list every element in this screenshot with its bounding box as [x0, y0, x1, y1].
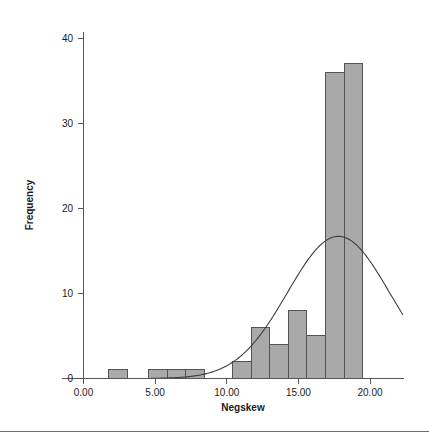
histogram-chart: 0.005.0010.0015.0020.00 010203040 Negske… [0, 0, 429, 443]
x-axis-tick-label: 5.00 [145, 387, 165, 398]
y-axis-tick-label: 20 [62, 203, 74, 214]
histogram-figure: 0.005.0010.0015.0020.00 010203040 Negske… [0, 0, 429, 443]
x-axis-tick-label: 0.00 [74, 387, 94, 398]
histogram-bar [109, 370, 128, 379]
bottom-divider [0, 431, 429, 432]
y-axis-title: Frequency [24, 179, 35, 230]
histogram-bar [344, 64, 363, 379]
histogram-bar [288, 310, 307, 378]
y-axis-tick-label: 30 [62, 118, 74, 129]
x-axis-title: Negskew [221, 402, 265, 413]
y-axis-tick-label: 0 [67, 373, 73, 384]
x-axis-tick-label: 20.00 [357, 387, 382, 398]
y-axis-tick-label: 10 [62, 288, 74, 299]
x-axis-tick-label: 15.00 [286, 387, 311, 398]
histogram-bar [149, 370, 168, 379]
y-axis-tick-label: 40 [62, 33, 74, 44]
chart-background [0, 0, 429, 443]
histogram-bar [232, 361, 251, 378]
x-axis-tick-label: 10.00 [214, 387, 239, 398]
histogram-bar [326, 72, 345, 378]
histogram-bar [307, 336, 326, 379]
histogram-bar [270, 344, 289, 378]
